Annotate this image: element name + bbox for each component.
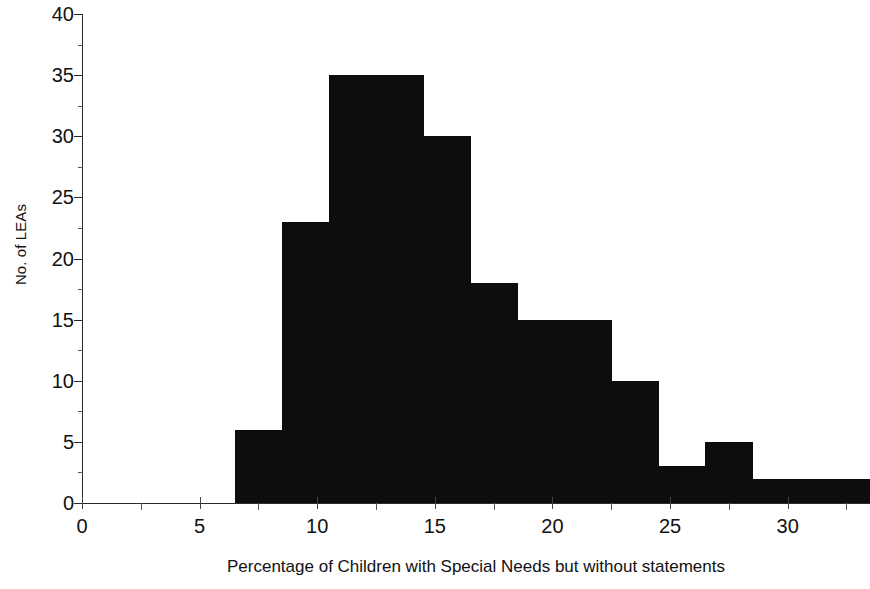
x-minor-tick xyxy=(846,503,847,510)
histogram-bar xyxy=(799,479,870,503)
x-tick-label: 10 xyxy=(287,515,347,538)
histogram-bar xyxy=(705,442,753,503)
x-minor-tick xyxy=(141,503,142,510)
x-minor-tick xyxy=(376,503,377,510)
x-minor-tick xyxy=(258,503,259,510)
x-tick-mark xyxy=(200,497,201,509)
x-minor-tick xyxy=(729,503,730,510)
plot-area xyxy=(82,14,870,503)
histogram-bar xyxy=(282,222,330,503)
histogram-bar xyxy=(235,430,283,503)
y-tick-label: 0 xyxy=(22,490,74,516)
histogram-bar xyxy=(658,466,706,503)
y-tick-label: 35 xyxy=(22,62,74,88)
x-axis-title: Percentage of Children with Special Need… xyxy=(82,557,870,577)
histogram-bar xyxy=(564,320,612,503)
y-tick-label: 30 xyxy=(22,123,74,149)
x-tick-mark xyxy=(552,497,553,509)
x-minor-tick xyxy=(494,503,495,510)
histogram-bar xyxy=(611,381,659,503)
x-tick-mark xyxy=(82,497,83,509)
x-tick-label: 25 xyxy=(640,515,700,538)
histogram-bar xyxy=(329,75,377,503)
y-tick-label: 20 xyxy=(22,246,74,272)
y-tick-label: 10 xyxy=(22,368,74,394)
histogram-bar xyxy=(517,320,565,503)
x-tick-mark xyxy=(435,497,436,509)
x-tick-mark xyxy=(317,497,318,509)
x-tick-label: 15 xyxy=(405,515,465,538)
y-tick-label: 15 xyxy=(22,307,74,333)
x-tick-label: 0 xyxy=(52,515,112,538)
y-tick-label: 40 xyxy=(22,1,74,27)
histogram-bar xyxy=(752,479,800,503)
x-tick-label: 30 xyxy=(758,515,818,538)
x-tick-label: 5 xyxy=(170,515,230,538)
histogram-bar xyxy=(376,75,424,503)
histogram-bar xyxy=(470,283,518,503)
y-tick-label: 25 xyxy=(22,184,74,210)
x-tick-mark xyxy=(670,497,671,509)
histogram-bar xyxy=(423,136,471,503)
x-minor-tick xyxy=(611,503,612,510)
x-tick-label: 20 xyxy=(522,515,582,538)
x-tick-mark xyxy=(788,497,789,509)
y-tick-label: 5 xyxy=(22,429,74,455)
histogram-chart: No. of LEAs 0510152025303540 05101520253… xyxy=(0,0,870,589)
